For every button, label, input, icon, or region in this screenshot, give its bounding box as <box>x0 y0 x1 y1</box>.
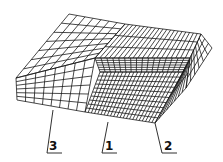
mesh-diagram: 3 1 2 <box>0 0 223 162</box>
label-1: 1 <box>105 140 113 152</box>
mesh-drawing <box>0 0 223 162</box>
label-3: 3 <box>49 140 57 152</box>
label-2: 2 <box>164 140 172 152</box>
